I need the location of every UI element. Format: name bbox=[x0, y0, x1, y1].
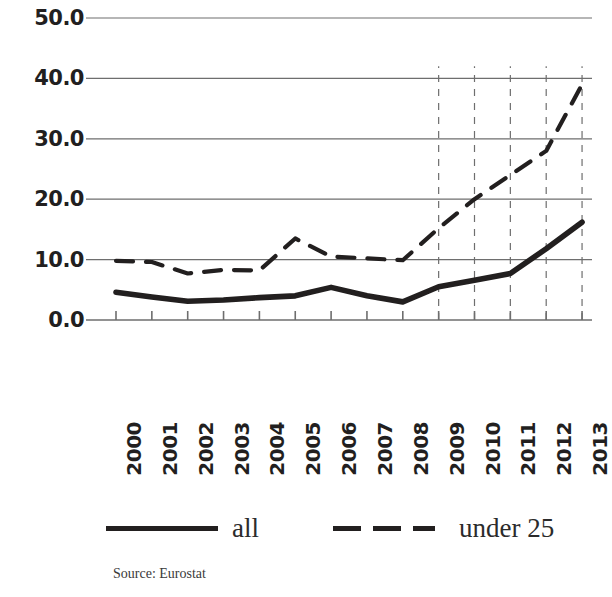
legend-line-segment bbox=[106, 526, 218, 531]
x-axis-tick-label: 2000 bbox=[124, 422, 144, 476]
y-axis-tick-labels: 50.040.030.020.010.00.0 bbox=[0, 0, 84, 340]
legend-swatch-dashed-line-icon bbox=[333, 517, 445, 539]
x-axis-tick-label: 2002 bbox=[196, 422, 216, 476]
x-axis-tick-label: 2010 bbox=[483, 422, 503, 476]
x-axis-tick-label: 2007 bbox=[375, 422, 395, 476]
y-axis-tick-label: 50.0 bbox=[6, 8, 84, 29]
x-axis-tick-label: 2003 bbox=[232, 422, 252, 476]
x-axis-tick-label: 2001 bbox=[160, 422, 180, 476]
legend-entry-all: all bbox=[106, 505, 259, 551]
x-axis-tick-label: 2004 bbox=[267, 422, 287, 476]
legend-swatch-solid-line-icon bbox=[106, 517, 218, 539]
y-axis-tick-label: 0.0 bbox=[6, 310, 84, 331]
series-line-all bbox=[116, 222, 582, 302]
chart-legend: all under 25 bbox=[0, 505, 592, 555]
y-axis-tick-label: 40.0 bbox=[6, 68, 84, 89]
plot-svg bbox=[86, 0, 592, 340]
x-axis-tick-label: 2005 bbox=[303, 422, 323, 476]
legend-dash-segment bbox=[333, 526, 361, 531]
plot-area bbox=[86, 0, 592, 340]
x-axis-tick-label: 2012 bbox=[554, 422, 574, 476]
legend-label-all: all bbox=[232, 515, 259, 542]
source-note: Source: Eurostat bbox=[113, 566, 206, 582]
legend-dash-segment bbox=[373, 526, 401, 531]
legend-label-under-25: under 25 bbox=[459, 515, 554, 542]
y-axis-tick-label: 30.0 bbox=[6, 128, 84, 149]
x-axis-tick-marks bbox=[116, 311, 582, 320]
x-axis-tick-label: 2008 bbox=[411, 422, 431, 476]
x-axis-tick-label: 2006 bbox=[339, 422, 359, 476]
x-axis-tick-label: 2011 bbox=[518, 422, 538, 476]
y-axis-tick-label: 20.0 bbox=[6, 189, 84, 210]
legend-entry-under-25: under 25 bbox=[333, 505, 554, 551]
x-axis-tick-label: 2009 bbox=[447, 422, 467, 476]
y-axis-tick-label: 10.0 bbox=[6, 249, 84, 270]
series-line-under-25 bbox=[116, 84, 582, 273]
data-series-lines bbox=[116, 84, 582, 301]
x-axis-tick-labels: 2000200120022003200420052006200720082009… bbox=[86, 322, 592, 442]
legend-dash-segment bbox=[413, 526, 435, 531]
x-axis-tick-label: 2013 bbox=[590, 422, 610, 476]
